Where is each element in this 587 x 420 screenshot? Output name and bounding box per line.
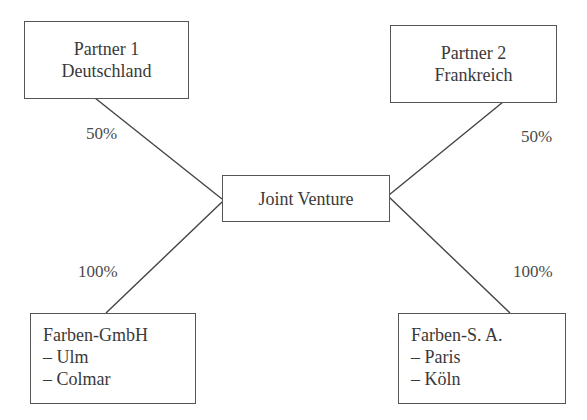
partner2-title: Partner 2 xyxy=(441,42,506,64)
subsidiary-sa-name: Farben-S. A. xyxy=(411,324,565,346)
partner1-country: Deutschland xyxy=(62,60,152,82)
partner1-box: Partner 1 Deutschland xyxy=(24,21,189,99)
edge-label-partner2-share: 50% xyxy=(521,127,552,147)
subsidiary-sa-box: Farben-S. A. – Paris – Köln xyxy=(398,313,566,404)
joint-venture-box: Joint Venture xyxy=(222,175,390,222)
edge-jv-sa xyxy=(389,197,510,313)
partner2-box: Partner 2 Frankreich xyxy=(390,25,557,103)
subsidiary-gmbh-box: Farben-GmbH – Ulm – Colmar xyxy=(30,313,196,404)
edge-partner2-jv xyxy=(389,102,503,195)
subsidiary-gmbh-location-2: – Colmar xyxy=(43,368,195,390)
edge-partner1-jv xyxy=(95,98,222,199)
partner1-title: Partner 1 xyxy=(74,38,139,60)
subsidiary-gmbh-name: Farben-GmbH xyxy=(43,324,195,346)
subsidiary-sa-location-2: – Köln xyxy=(411,368,565,390)
edge-label-gmbh-share: 100% xyxy=(78,262,118,282)
subsidiary-gmbh-location-1: – Ulm xyxy=(43,346,195,368)
joint-venture-label: Joint Venture xyxy=(258,188,353,210)
partner2-country: Frankreich xyxy=(435,64,513,86)
ownership-diagram: Partner 1 Deutschland Partner 2 Frankrei… xyxy=(0,0,587,420)
edge-label-partner1-share: 50% xyxy=(86,124,117,144)
edge-label-sa-share: 100% xyxy=(513,262,553,282)
edge-jv-gmbh xyxy=(106,202,222,313)
subsidiary-sa-location-1: – Paris xyxy=(411,346,565,368)
